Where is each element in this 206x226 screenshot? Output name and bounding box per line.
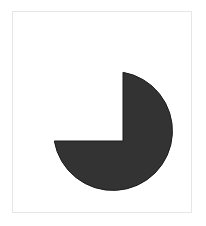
three-quarter-pie-shape <box>54 72 172 190</box>
pie-shape-canvas <box>0 0 206 226</box>
